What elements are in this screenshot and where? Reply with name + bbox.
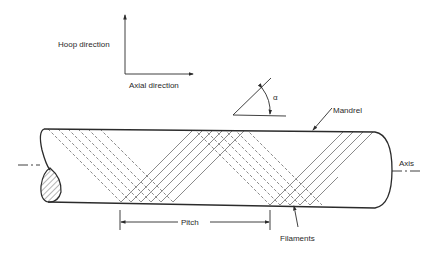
back-filaments-middle: [194, 129, 322, 205]
angle-arc: [262, 88, 270, 114]
alpha-label: α: [273, 93, 278, 102]
filaments-label: Filaments: [280, 234, 315, 243]
back-filaments-left: [48, 129, 173, 202]
mandrel-label: Mandrel: [333, 106, 362, 115]
front-filaments-right: [270, 130, 375, 205]
axial-direction-label: Axial direction: [129, 81, 179, 90]
filament-winding-diagram: Hoop direction Axial direction α: [0, 0, 432, 255]
filament-windings: [48, 129, 375, 205]
filaments-callout: Filaments: [280, 206, 315, 243]
mandrel: [18, 129, 420, 208]
hoop-direction-label: Hoop direction: [58, 40, 110, 49]
pitch-label: Pitch: [181, 218, 199, 227]
cross-section: [41, 168, 61, 202]
direction-axes: Hoop direction Axial direction: [58, 15, 193, 90]
pitch-dimension: Pitch: [120, 210, 270, 230]
axis-label: Axis: [399, 159, 414, 168]
winding-angle: α: [233, 78, 286, 116]
mandrel-callout: Mandrel: [313, 106, 362, 130]
